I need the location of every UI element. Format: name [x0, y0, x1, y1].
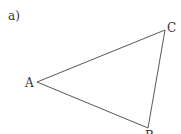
- vertex-label-c: C: [167, 22, 176, 34]
- triangle-diagram: [0, 0, 181, 134]
- triangle-abc: [37, 30, 165, 128]
- vertex-label-a: A: [25, 77, 34, 89]
- vertex-label-b: B: [145, 130, 154, 134]
